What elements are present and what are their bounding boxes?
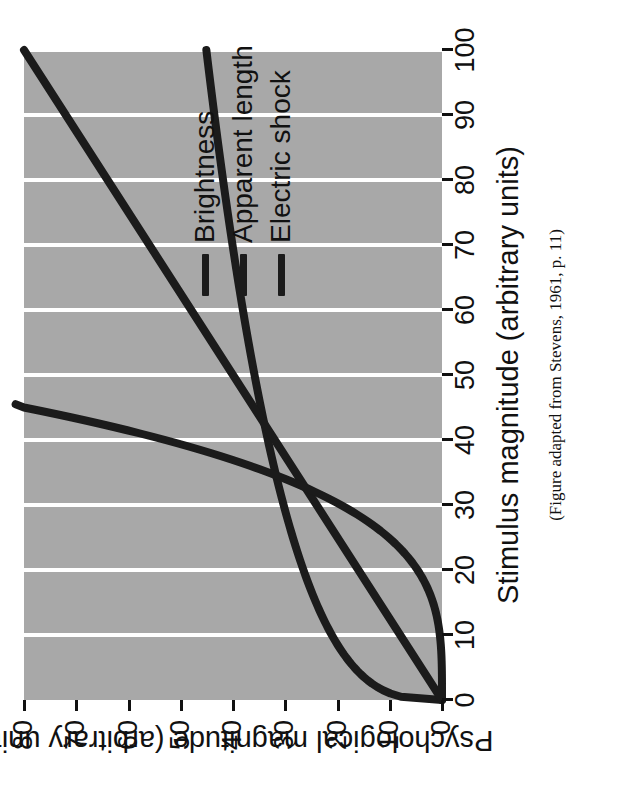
legend-swatch-electric-shock xyxy=(278,254,285,296)
figure-canvas: Stimulus magnitude (arbitrary units) Psy… xyxy=(0,0,620,808)
y-tick-label-30: 30 xyxy=(271,720,298,782)
y-tick-0 xyxy=(441,700,444,711)
x-tick-label-70: 70 xyxy=(452,215,479,275)
y-tick-60 xyxy=(128,700,131,711)
figure-caption: (Figure adapted from Stevens, 1961, p. 1… xyxy=(546,50,566,700)
y-tick-10 xyxy=(389,700,392,711)
legend-item-apparent-length[interactable]: Apparent length xyxy=(224,45,262,296)
legend-item-electric-shock[interactable]: Electric shock xyxy=(262,45,300,296)
legend-swatch-apparent-length xyxy=(240,254,247,296)
x-tick-label-30: 30 xyxy=(452,475,479,535)
legend-label-apparent-length: Apparent length xyxy=(229,45,257,243)
x-axis-title: Stimulus magnitude (arbitrary units) xyxy=(492,50,525,700)
y-tick-label-20: 20 xyxy=(324,720,351,782)
legend-swatch-brightness xyxy=(202,254,209,296)
x-tick-label-10: 10 xyxy=(452,605,479,665)
x-tick-label-50: 50 xyxy=(452,345,479,405)
x-tick-label-0: 0 xyxy=(452,670,479,730)
legend: Brightness Apparent length Electric shoc… xyxy=(186,45,300,296)
x-tick-label-40: 40 xyxy=(452,410,479,470)
x-tick-label-100: 100 xyxy=(452,20,479,80)
rotated-figure-wrapper: Stimulus magnitude (arbitrary units) Psy… xyxy=(0,0,620,808)
y-tick-label-0: 0 xyxy=(428,720,455,782)
y-tick-label-60: 60 xyxy=(115,720,142,782)
x-tick-label-20: 20 xyxy=(452,540,479,600)
y-tick-label-40: 40 xyxy=(219,720,246,782)
legend-item-brightness[interactable]: Brightness xyxy=(186,45,224,296)
curve-electric-shock xyxy=(16,404,442,700)
y-tick-label-10: 10 xyxy=(376,720,403,782)
y-tick-label-80: 80 xyxy=(10,720,37,782)
x-tick-label-80: 80 xyxy=(452,150,479,210)
y-tick-label-70: 70 xyxy=(62,720,89,782)
y-tick-30 xyxy=(284,700,287,711)
y-tick-70 xyxy=(75,700,78,711)
y-tick-50 xyxy=(180,700,183,711)
y-tick-40 xyxy=(232,700,235,711)
y-tick-20 xyxy=(337,700,340,711)
y-tick-80 xyxy=(23,700,26,711)
y-tick-label-50: 50 xyxy=(167,720,194,782)
x-tick-label-60: 60 xyxy=(452,280,479,340)
legend-label-electric-shock: Electric shock xyxy=(267,70,295,243)
legend-label-brightness: Brightness xyxy=(191,111,219,243)
x-tick-label-90: 90 xyxy=(452,85,479,145)
